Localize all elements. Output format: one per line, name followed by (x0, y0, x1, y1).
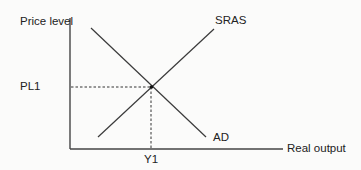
ad-curve (91, 28, 206, 137)
sras-label: SRAS (215, 15, 246, 27)
x-axis-label: Real output (287, 143, 346, 155)
equilibrium-point (150, 85, 154, 89)
y-axis-label: Price level (20, 16, 73, 28)
y1-label: Y1 (144, 154, 158, 166)
pl1-label: PL1 (20, 81, 40, 93)
ad-label: AD (213, 132, 229, 144)
sras-curve (98, 29, 214, 137)
